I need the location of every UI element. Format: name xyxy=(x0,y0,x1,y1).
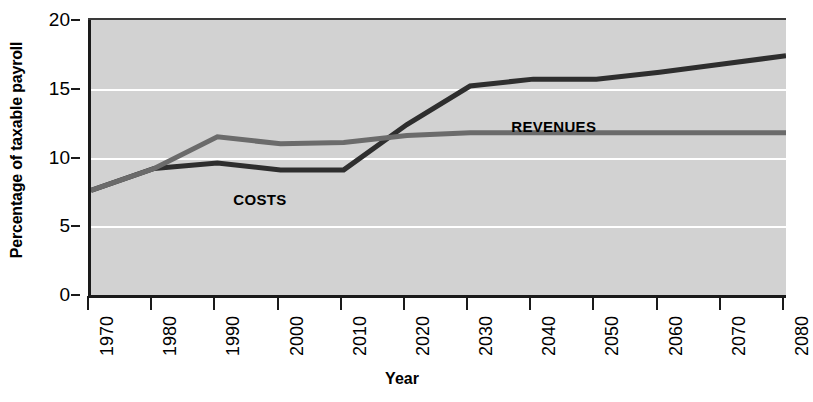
series-line-revenues xyxy=(91,133,786,191)
y-axis-tick-mark xyxy=(71,225,80,227)
y-axis-title-text: Percentage of taxable payroll xyxy=(8,42,26,259)
x-axis-tick-label: 1990 xyxy=(223,316,244,356)
plot-inner xyxy=(91,20,786,295)
x-axis-tick-mark xyxy=(782,296,784,310)
x-axis-tick-mark xyxy=(340,296,342,310)
x-axis-tick-mark xyxy=(592,296,594,310)
y-axis-tick-group: 05101520 xyxy=(34,0,80,310)
y-axis-tick-label: 20 xyxy=(49,9,70,31)
y-axis-tick-label: 5 xyxy=(59,215,70,237)
series-label-revenues: REVENUES xyxy=(511,118,596,135)
series-line-costs xyxy=(91,56,786,191)
y-axis-tick-mark xyxy=(71,294,80,296)
x-axis-tick-mark xyxy=(466,296,468,310)
x-axis-tick-label: 2030 xyxy=(476,316,497,356)
x-axis-tick-label: 2010 xyxy=(350,316,371,356)
x-axis-tick-label: 2020 xyxy=(413,316,434,356)
x-axis-tick-label: 2040 xyxy=(539,316,560,356)
x-axis-tick-mark xyxy=(213,296,215,310)
y-axis-tick-mark xyxy=(71,19,80,21)
x-axis-tick-mark xyxy=(656,296,658,310)
x-axis-tick-mark xyxy=(719,296,721,310)
y-axis-tick-label: 0 xyxy=(59,284,70,306)
y-axis-title: Percentage of taxable payroll xyxy=(0,0,34,300)
x-axis-tick-mark xyxy=(403,296,405,310)
x-axis-title: Year xyxy=(0,370,804,388)
series-label-costs: COSTS xyxy=(233,191,286,208)
plot-area xyxy=(88,20,786,298)
x-axis-tick-label: 2080 xyxy=(792,316,813,356)
y-axis-tick-mark xyxy=(71,157,80,159)
x-axis-tick-mark xyxy=(87,296,89,310)
x-axis-tick-mark xyxy=(150,296,152,310)
x-axis-tick-label: 2000 xyxy=(287,316,308,356)
y-axis-tick-label: 15 xyxy=(49,78,70,100)
x-axis-tick-mark xyxy=(529,296,531,310)
series-lines xyxy=(91,20,786,295)
x-axis-tick-label: 2060 xyxy=(666,316,687,356)
x-axis-tick-label: 2050 xyxy=(602,316,623,356)
x-axis-tick-label: 2070 xyxy=(729,316,750,356)
x-axis-tick-label: 1970 xyxy=(97,316,118,356)
x-axis-tick-mark xyxy=(277,296,279,310)
x-axis-tick-label: 1980 xyxy=(160,316,181,356)
y-axis-tick-label: 10 xyxy=(49,147,70,169)
y-axis-tick-mark xyxy=(71,88,80,90)
